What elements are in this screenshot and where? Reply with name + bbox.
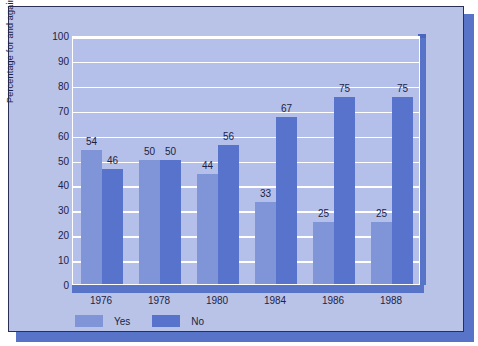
legend-swatch-yes — [75, 315, 103, 327]
y-axis-tick-label: 90 — [35, 55, 69, 66]
y-axis-tick-label: 70 — [35, 105, 69, 116]
figure-card: 0102030405060708090100 Percentage for an… — [8, 6, 464, 332]
chart-legend: YesNo — [75, 315, 226, 327]
plot-area: 544650504456336725752575 — [72, 36, 420, 285]
bar-yes-1978: 50 — [139, 160, 160, 285]
bar-value-label: 50 — [156, 146, 186, 157]
bar-yes-1980: 44 — [197, 174, 218, 284]
bar-yes-1986: 25 — [313, 222, 334, 284]
y-axis-tick-label: 50 — [35, 155, 69, 166]
bar-value-label: 75 — [330, 83, 360, 94]
x-axis-tick-label: 1976 — [71, 295, 131, 306]
bar-value-label: 46 — [98, 155, 128, 166]
plot-floor — [72, 285, 424, 293]
x-axis-ticks: 197619781980198419861988 — [72, 295, 420, 311]
y-axis-tick-label: 40 — [35, 180, 69, 191]
y-axis-tick-label: 100 — [35, 31, 69, 42]
bar-value-label: 56 — [214, 131, 244, 142]
x-axis-tick-label: 1986 — [303, 295, 363, 306]
bar-no-1988: 75 — [392, 97, 413, 284]
bar-yes-1988: 25 — [371, 222, 392, 284]
y-axis-label: Percentage for and against — [5, 0, 15, 103]
y-axis-tick-label: 20 — [35, 230, 69, 241]
y-axis-tick-label: 80 — [35, 80, 69, 91]
bar-group: 3367 — [255, 37, 297, 284]
y-axis-tick-label: 10 — [35, 255, 69, 266]
y-axis-tick-label: 30 — [35, 205, 69, 216]
x-axis-tick-label: 1978 — [129, 295, 189, 306]
bar-yes-1976: 54 — [81, 150, 102, 284]
bar-group: 5050 — [139, 37, 181, 284]
bar-group: 2575 — [371, 37, 413, 284]
legend-item-no: No — [152, 315, 204, 327]
bar-group: 5446 — [81, 37, 123, 284]
bar-group: 4456 — [197, 37, 239, 284]
bar-value-label: 54 — [77, 136, 107, 147]
bar-no-1984: 67 — [276, 117, 297, 284]
legend-item-yes: Yes — [75, 315, 130, 327]
bar-value-label: 75 — [388, 83, 418, 94]
y-axis-ticks: 0102030405060708090100 — [29, 36, 69, 285]
legend-label: Yes — [114, 316, 130, 327]
x-axis-tick-label: 1984 — [245, 295, 305, 306]
legend-label: No — [191, 316, 204, 327]
bar-no-1986: 75 — [334, 97, 355, 284]
bar-no-1978: 50 — [160, 160, 181, 285]
bar-yes-1984: 33 — [255, 202, 276, 284]
legend-swatch-no — [152, 315, 180, 327]
chart-figure: 0102030405060708090100 Percentage for an… — [0, 0, 478, 346]
bar-no-1980: 56 — [218, 145, 239, 284]
bar-value-label: 67 — [272, 103, 302, 114]
bar-group: 2575 — [313, 37, 355, 284]
y-axis-tick-label: 60 — [35, 130, 69, 141]
x-axis-tick-label: 1980 — [187, 295, 247, 306]
y-axis-tick-label: 0 — [35, 280, 69, 291]
x-axis-tick-label: 1988 — [361, 295, 421, 306]
bar-series-container: 544650504456336725752575 — [73, 37, 419, 284]
bar-no-1976: 46 — [102, 169, 123, 284]
